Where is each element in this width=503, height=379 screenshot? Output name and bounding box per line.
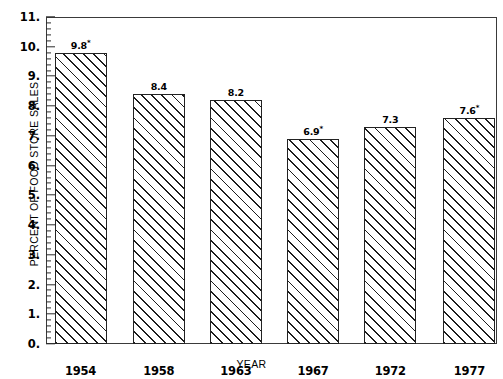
bar: [210, 100, 262, 344]
y-axis-minor-tick: [46, 88, 51, 89]
y-axis-minor-tick: [46, 326, 51, 327]
y-axis-minor-tick: [46, 94, 51, 95]
y-axis-minor-tick: [46, 70, 51, 71]
y-axis-minor-tick: [46, 123, 51, 124]
y-axis-tick-label: 11.: [2, 10, 40, 24]
y-axis-minor-tick: [46, 207, 51, 208]
y-axis-minor-tick: [46, 64, 51, 65]
y-axis-minor-tick: [46, 219, 51, 220]
y-axis-tick-label: 9.: [2, 69, 40, 83]
y-axis-minor-tick: [46, 82, 51, 83]
y-axis-minor-tick: [46, 58, 51, 59]
y-axis-minor-tick: [46, 290, 51, 291]
y-axis-minor-tick: [46, 230, 51, 231]
axis-and-data-layer: 0.1.2.3.4.5.6.7.8.9.10.11.9.8*19548.4195…: [46, 17, 497, 344]
x-axis-title: YEAR: [0, 358, 503, 370]
y-axis-tick-label: 2.: [2, 278, 40, 292]
bar-chart-figure: PERCENT OF FOOD STORE SALES 0.1.2.3.4.5.…: [0, 0, 503, 379]
y-axis-minor-tick: [46, 248, 51, 249]
y-axis-tick-label: 0.: [2, 337, 40, 351]
y-axis-minor-tick: [46, 40, 51, 41]
y-axis-minor-tick: [46, 153, 51, 154]
bar: [443, 118, 495, 344]
y-axis-minor-tick: [46, 189, 51, 190]
y-axis-tick-label: 5.: [2, 188, 40, 202]
y-axis-tick-label: 3.: [2, 248, 40, 262]
bar-value-label: 7.3: [364, 114, 416, 125]
y-axis-minor-tick: [46, 201, 51, 202]
y-axis-minor-tick: [46, 320, 51, 321]
y-axis-minor-tick: [46, 177, 51, 178]
bar-value-label: 7.6*: [443, 105, 495, 116]
y-axis-minor-tick: [46, 213, 51, 214]
y-axis-minor-tick: [46, 34, 51, 35]
bar-value-label: 8.4: [133, 81, 185, 92]
bar: [364, 127, 416, 344]
y-axis-minor-tick: [46, 112, 51, 113]
y-axis-minor-tick: [46, 22, 51, 23]
y-axis-minor-tick: [46, 52, 51, 53]
y-axis-minor-tick: [46, 296, 51, 297]
y-axis-minor-tick: [46, 236, 51, 237]
y-axis-major-tick: [46, 16, 55, 17]
y-axis-minor-tick: [46, 337, 51, 338]
y-axis-minor-tick: [46, 266, 51, 267]
bar-value-label: 6.9*: [287, 126, 339, 137]
y-axis-minor-tick: [46, 141, 51, 142]
y-axis-minor-tick: [46, 183, 51, 184]
bar: [133, 94, 185, 344]
y-axis-minor-tick: [46, 117, 51, 118]
y-axis-tick-label: 7.: [2, 129, 40, 143]
y-axis-minor-tick: [46, 331, 51, 332]
y-axis-minor-tick: [46, 159, 51, 160]
y-axis-minor-tick: [46, 242, 51, 243]
y-axis-minor-tick: [46, 147, 51, 148]
y-axis-minor-tick: [46, 171, 51, 172]
y-axis-minor-tick: [46, 260, 51, 261]
y-axis-tick-label: 6.: [2, 159, 40, 173]
y-axis-minor-tick: [46, 302, 51, 303]
y-axis-tick-label: 8.: [2, 99, 40, 113]
y-axis-tick-label: 10.: [2, 40, 40, 54]
y-axis-tick-label: 1.: [2, 307, 40, 321]
y-axis-minor-tick: [46, 272, 51, 273]
y-axis-tick-label: 4.: [2, 218, 40, 232]
bar: [55, 53, 107, 344]
bar: [287, 139, 339, 344]
y-axis-minor-tick: [46, 129, 51, 130]
y-axis-minor-tick: [46, 308, 51, 309]
bar-value-label: 8.2: [210, 87, 262, 98]
bar-value-label: 9.8*: [55, 40, 107, 51]
y-axis-minor-tick: [46, 28, 51, 29]
y-axis-minor-tick: [46, 278, 51, 279]
y-axis-minor-tick: [46, 100, 51, 101]
